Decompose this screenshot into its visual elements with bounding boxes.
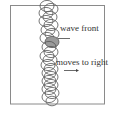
- circle-chain: [39, 0, 59, 105]
- particle-circle: [45, 87, 59, 98]
- arrow-head-icon: [76, 69, 79, 72]
- wave-front-label: wave front: [60, 23, 99, 33]
- particle-circle: [43, 11, 57, 22]
- wave-front-diagram: wave front moves to right: [0, 0, 113, 114]
- moves-to-right-label: moves to right: [56, 57, 108, 67]
